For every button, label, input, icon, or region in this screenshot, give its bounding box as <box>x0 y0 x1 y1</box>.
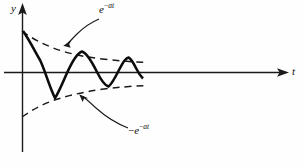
upper-envelope-leader-arrowhead <box>63 41 71 48</box>
lower-envelope-leader-arrowhead <box>79 94 88 102</box>
lower-envelope-curve <box>22 86 145 117</box>
y-axis-label: y <box>11 3 16 14</box>
lower-envelope-leader-line <box>83 96 129 128</box>
damped-oscillation-curve <box>23 31 143 98</box>
upper-envelope-label: e−at <box>99 4 114 15</box>
figure-canvas <box>0 0 304 166</box>
figure-damped-oscillation: y t e−at −e−at <box>0 0 304 166</box>
lower-envelope-label: −e−at <box>128 125 149 136</box>
t-axis-label: t <box>292 66 295 77</box>
lower-envelope-label-exponent: −at <box>139 122 149 131</box>
upper-envelope-label-exponent: −at <box>104 1 114 10</box>
